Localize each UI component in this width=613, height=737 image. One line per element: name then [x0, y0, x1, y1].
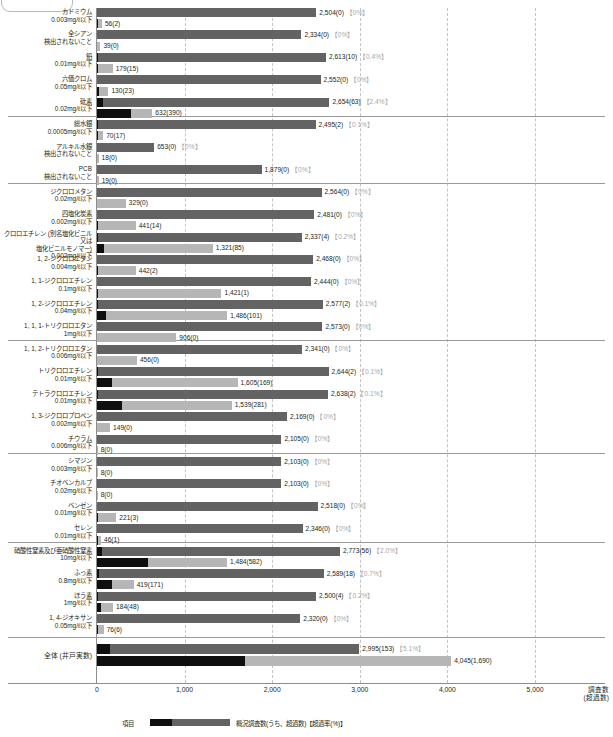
survey-exceed-rate: 【0%】: [347, 502, 371, 509]
survey-bar-value: 2,481(0) 【0%】: [317, 210, 367, 220]
survey-exceed-rate: 【0%】: [330, 615, 354, 622]
survey-bar: [97, 367, 329, 376]
survey-bar: [97, 120, 316, 129]
survey-exceed-segment: [97, 233, 98, 242]
row-label-name: ほう素: [0, 592, 92, 600]
row-label-name: 鉛: [0, 53, 92, 61]
row-label-name: 砒素: [0, 98, 92, 106]
detection-bar-fill: [97, 423, 110, 432]
detection-bar: [97, 87, 108, 96]
detection-exceed-segment: [97, 19, 98, 28]
row-label-name: 1, 3-ジクロロプロペン: [0, 412, 92, 420]
survey-exceed-rate: 【0%】: [344, 211, 368, 218]
chart-row: アルキル水銀検出されないこと653(0) 【0%】18(0): [0, 143, 613, 165]
survey-exceed-rate: 【0.7%】: [357, 570, 386, 577]
survey-bar-fill: [97, 322, 322, 331]
survey-bar-value: 2,644(2) 【0.1%】: [332, 367, 387, 377]
row-label-name: シマジン: [0, 457, 92, 465]
survey-exceed-segment: [97, 592, 98, 601]
detection-bar: [97, 311, 227, 320]
survey-exceed-rate: 【0%】: [341, 278, 365, 285]
survey-bar: [97, 502, 318, 511]
detection-bar-value: 329(0): [129, 198, 148, 208]
detection-bar: [97, 64, 113, 73]
row-label: ほう素1mg/ℓ以下: [0, 592, 92, 607]
survey-count-text: 2,518(0): [321, 502, 346, 509]
survey-exceed-rate: 【0%】: [316, 413, 340, 420]
detection-exceed-segment: [97, 87, 99, 96]
detection-bar: [97, 423, 110, 432]
detection-bar-value: 221(3): [119, 513, 138, 523]
survey-bar-fill: [97, 165, 262, 174]
survey-bar: [97, 435, 281, 444]
survey-exceed-segment: [97, 300, 98, 309]
survey-bar-value: 2,334(0) 【0%】: [304, 30, 354, 40]
row-label-standard: 検出されないこと: [0, 38, 92, 46]
survey-count-text: 2,573(0): [325, 323, 350, 330]
row-label-standard: 0.01mg/ℓ以下: [0, 375, 92, 383]
row-label-name: PCB: [0, 165, 92, 173]
row-label: トリクロロエチレン0.01mg/ℓ以下: [0, 367, 92, 382]
survey-bar: [97, 345, 302, 354]
survey-bar-fill: [97, 390, 328, 399]
row-label-standard: 0.002mg/ℓ以下: [0, 420, 92, 428]
row-label-name: カドミウム: [0, 8, 92, 16]
survey-exceed-rate: 【0%】: [346, 9, 370, 16]
chart-row: クロロエチレン (別名塩化ビニル又は塩化ビニルモノマー)0.002mg/ℓ以下2…: [0, 233, 613, 255]
chart-row: 硝酸性窒素及び亜硝酸性窒素10mg/ℓ以下2,773(56) 【2.0%】1,4…: [0, 547, 613, 569]
survey-count-text: 2,468(0): [316, 255, 341, 262]
survey-exceed-rate: 【0%】: [343, 255, 367, 262]
row-label-name: クロロエチレン (別名塩化ビニル又は: [0, 230, 92, 245]
detection-bar-value: 8(0): [101, 468, 113, 478]
chart-row: 1, 4-ジオキサン0.05mg/ℓ以下2,320(0) 【0%】76(6): [0, 614, 613, 636]
survey-bar-fill: [97, 30, 301, 39]
detection-bar-fill: [97, 356, 137, 365]
legend-exceed-swatch: [150, 719, 172, 726]
row-label: 1, 1, 1-トリクロロエタン1mg/ℓ以下: [0, 322, 92, 337]
detection-bar: [97, 536, 101, 545]
detection-bar-value: 70(17): [106, 131, 125, 141]
survey-bar: [97, 614, 300, 623]
survey-bar-value: 2,495(2) 【0.1%】: [319, 120, 374, 130]
detection-bar-fill: [97, 199, 126, 208]
x-tick-5000: 5,000: [515, 686, 555, 693]
row-label: 総水銀0.0005mg/ℓ以下: [0, 120, 92, 135]
detection-bar: [97, 176, 99, 185]
detection-bar-fill: [97, 289, 221, 298]
survey-bar-fill: [97, 210, 314, 219]
survey-bar-value: 2,638(2) 【0.1%】: [331, 389, 386, 399]
survey-bar-value: 2,552(0) 【0%】: [324, 75, 374, 85]
detection-bar: [97, 378, 238, 387]
detection-bar: [97, 356, 137, 365]
detection-bar: [97, 19, 102, 28]
row-label-name: セレン: [0, 524, 92, 532]
survey-bar-fill: [97, 435, 281, 444]
x-tick-1000: 1,000: [165, 686, 205, 693]
row-label-standard: 検出されないこと: [0, 150, 92, 158]
detection-exceed-segment: [97, 266, 98, 275]
detection-bar: [97, 221, 136, 230]
chart-row: 1, 1, 1-トリクロロエタン1mg/ℓ以下2,573(0) 【0%】906(…: [0, 322, 613, 344]
survey-bar-value: 2,773(56) 【2.0%】: [343, 546, 402, 556]
survey-bar-fill: [97, 547, 340, 556]
row-label: アルキル水銀検出されないこと: [0, 143, 92, 158]
survey-bar: [97, 569, 324, 578]
survey-count-text: 1,879(0): [265, 166, 290, 173]
detection-bar-fill: [97, 266, 136, 275]
survey-exceed-rate: 【0%】: [331, 31, 355, 38]
row-label-name: テトラクロロエチレン: [0, 390, 92, 398]
detection-bar-value: 19(0): [102, 176, 117, 186]
row-label-standard: 0.002mg/ℓ以下: [0, 218, 92, 226]
survey-bar: [97, 75, 321, 84]
row-label-standard: 0.02mg/ℓ以下: [0, 487, 92, 495]
survey-bar-value: 2,103(0) 【0%】: [284, 479, 334, 489]
survey-count-text: 2,103(0): [284, 480, 309, 487]
survey-bar-value: 2,341(0) 【0%】: [305, 344, 355, 354]
survey-bar: [97, 457, 281, 466]
row-label-standard: 0.01mg/ℓ以下: [0, 397, 92, 405]
detection-bar-fill: [97, 244, 213, 253]
survey-bar: [97, 322, 322, 331]
detection-bar: [97, 491, 98, 500]
row-label-standard: 0.006mg/ℓ以下: [0, 442, 92, 450]
row-label: シマジン0.003mg/ℓ以下: [0, 457, 92, 472]
